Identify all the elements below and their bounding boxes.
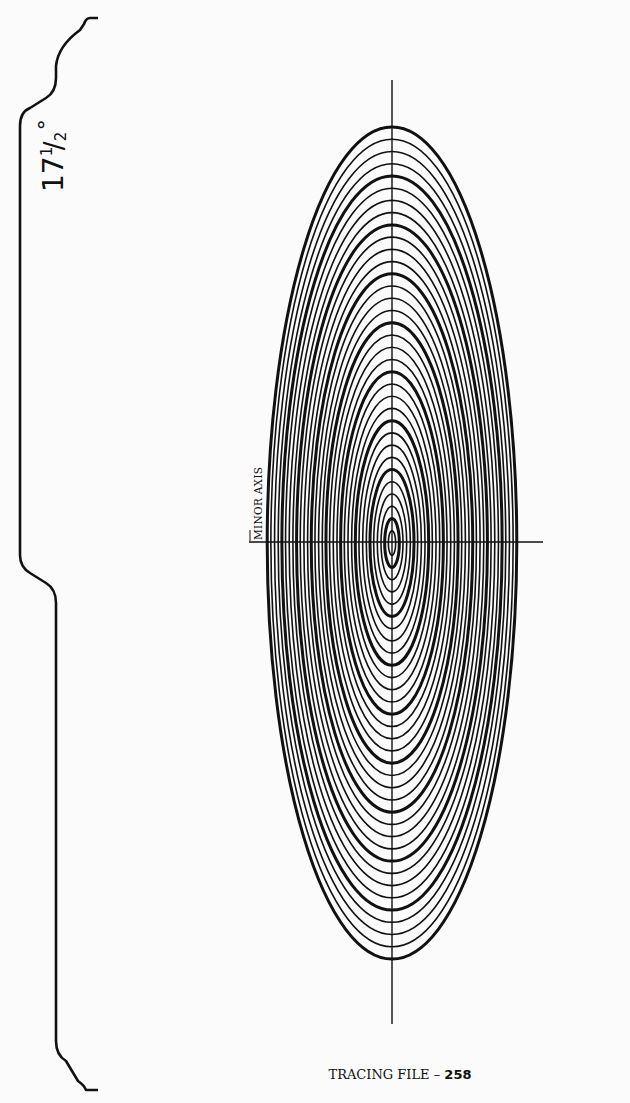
page-footer: TRACING FILE – 258 <box>0 1067 630 1082</box>
footer-title: TRACING FILE – <box>328 1067 440 1082</box>
minor-axis-label: MINOR AXIS <box>252 467 264 540</box>
degree-symbol: ° <box>34 119 59 130</box>
footer-page-number: 258 <box>444 1067 471 1082</box>
fraction-slash: / <box>41 142 67 151</box>
fraction-denominator: 2 <box>54 132 69 142</box>
angle-whole: 17 <box>37 156 70 192</box>
projection-angle-label: 171/2° <box>40 119 68 192</box>
angle-fraction: 1/2 <box>40 130 68 156</box>
ellipse-tracing-diagram <box>0 0 630 1103</box>
